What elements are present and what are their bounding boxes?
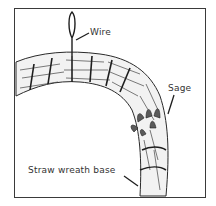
wire-loop: [69, 12, 75, 56]
wire-leader-line: [76, 33, 89, 40]
wire-label: Wire: [90, 27, 111, 37]
straw-wreath-base-label: Straw wreath base: [28, 165, 116, 175]
base-leader-line: [124, 176, 138, 186]
sage-leader-line: [168, 95, 174, 114]
sage-label: Sage: [168, 83, 191, 93]
